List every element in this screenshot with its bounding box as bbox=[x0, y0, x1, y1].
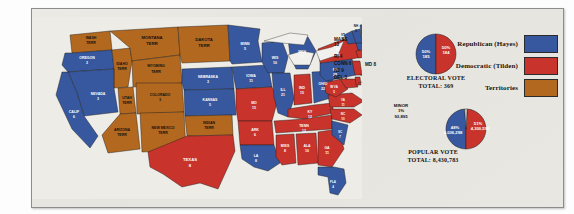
label-new-jersey: NJ 9 bbox=[334, 68, 351, 73]
svg-text:ARK: ARK bbox=[251, 128, 259, 132]
svg-text:12: 12 bbox=[302, 129, 306, 133]
svg-text:3: 3 bbox=[86, 61, 88, 65]
svg-text:MICH: MICH bbox=[298, 50, 306, 54]
popular-rep-votes: 4,036,298 bbox=[444, 130, 463, 135]
svg-text:DAKOTA: DAKOTA bbox=[195, 37, 213, 42]
svg-text:TERR: TERR bbox=[151, 70, 161, 74]
svg-text:UTAH: UTAH bbox=[122, 96, 132, 100]
svg-text:ALA: ALA bbox=[303, 144, 311, 148]
popular-pie: 48% 4,036,298 51% 4,300,590 bbox=[444, 109, 490, 149]
svg-text:WIS: WIS bbox=[272, 56, 279, 60]
legend-item-democratic: Democratic (Tilden) bbox=[446, 57, 558, 74]
svg-text:3: 3 bbox=[97, 97, 99, 101]
legend-item-republican: Republican (Hayes) bbox=[446, 35, 558, 52]
svg-text:OREGON: OREGON bbox=[79, 56, 95, 60]
svg-text:MINN: MINN bbox=[241, 42, 250, 46]
svg-text:KANSAS: KANSAS bbox=[203, 98, 218, 102]
svg-text:TERR: TERR bbox=[86, 41, 96, 45]
legend-swatch-territories bbox=[524, 79, 558, 97]
popular-caption-line1: POPULAR VOTE bbox=[384, 149, 482, 157]
svg-text:10: 10 bbox=[273, 61, 277, 65]
svg-text:TERR: TERR bbox=[146, 41, 157, 46]
svg-text:MONTANA: MONTANA bbox=[141, 35, 162, 40]
svg-text:NH: NH bbox=[354, 24, 358, 28]
svg-text:TENN: TENN bbox=[299, 124, 309, 128]
state-delaware bbox=[355, 77, 361, 85]
minor-pct: 1% bbox=[398, 108, 404, 113]
svg-text:15: 15 bbox=[252, 106, 256, 110]
minor-votes: 93,895 bbox=[394, 114, 407, 119]
northeast-callouts: MASS13 RI 4 CONN 6 NJ 9 DEL 3 bbox=[334, 37, 351, 81]
svg-text:IND: IND bbox=[299, 86, 306, 90]
legend-label-republican: Republican (Hayes) bbox=[457, 40, 518, 48]
state-oregon bbox=[62, 50, 114, 72]
svg-text:21: 21 bbox=[281, 93, 285, 97]
svg-text:8: 8 bbox=[255, 159, 257, 163]
svg-text:6: 6 bbox=[73, 115, 75, 119]
svg-text:LA: LA bbox=[254, 154, 259, 158]
svg-text:MISS: MISS bbox=[281, 144, 290, 148]
svg-text:TERR: TERR bbox=[158, 131, 168, 135]
svg-text:TERR: TERR bbox=[204, 126, 214, 130]
state-missouri bbox=[236, 87, 278, 121]
svg-text:5: 5 bbox=[244, 47, 246, 51]
svg-text:3: 3 bbox=[159, 98, 161, 102]
legend-swatch-democratic bbox=[524, 57, 558, 75]
svg-text:FLA: FLA bbox=[330, 180, 337, 184]
svg-text:KY: KY bbox=[308, 110, 314, 114]
svg-text:TEXAS: TEXAS bbox=[183, 157, 197, 162]
svg-text:INDIAN: INDIAN bbox=[203, 121, 216, 125]
svg-text:ILL: ILL bbox=[280, 88, 286, 92]
legend-swatch-republican bbox=[524, 35, 558, 53]
svg-text:TERR: TERR bbox=[198, 43, 209, 48]
svg-text:10: 10 bbox=[305, 149, 309, 153]
svg-text:WASH: WASH bbox=[86, 36, 97, 40]
svg-text:TERR: TERR bbox=[117, 67, 127, 71]
label-rhode-island: RI 4 bbox=[334, 54, 351, 59]
svg-text:10: 10 bbox=[341, 117, 345, 121]
legend-label-democratic: Democratic (Tilden) bbox=[456, 62, 518, 70]
state-arkansas bbox=[238, 121, 274, 145]
svg-text:TERR: TERR bbox=[117, 133, 127, 137]
label-delaware: DEL 3 bbox=[334, 75, 351, 80]
legend-label-territories: Territories bbox=[485, 84, 518, 92]
svg-text:ARIZONA: ARIZONA bbox=[114, 128, 130, 132]
svg-text:11: 11 bbox=[325, 151, 329, 155]
svg-text:15: 15 bbox=[300, 91, 304, 95]
svg-text:22: 22 bbox=[321, 87, 325, 91]
minor-label: MINOR bbox=[394, 103, 408, 108]
label-connecticut: CONN 6 bbox=[334, 61, 351, 66]
svg-text:6: 6 bbox=[254, 133, 256, 137]
map-panel: 1876 bbox=[31, 8, 564, 208]
legend-item-territories: Territories bbox=[446, 79, 558, 96]
svg-text:12: 12 bbox=[308, 115, 312, 119]
popular-dem-votes: 4,300,590 bbox=[471, 126, 490, 131]
svg-text:MO: MO bbox=[251, 101, 257, 105]
svg-text:8: 8 bbox=[284, 149, 286, 153]
svg-text:11: 11 bbox=[249, 79, 253, 83]
us-electoral-map: WASHTERR OREGON3 IDAHOTERR MONTANATERR W… bbox=[32, 17, 362, 199]
svg-text:NEVADA: NEVADA bbox=[91, 92, 106, 96]
svg-text:CALIF: CALIF bbox=[69, 110, 80, 114]
label-massachusetts: MASS13 bbox=[334, 37, 351, 48]
popular-vote-chart: MINOR 1% 93,895 48% 4,036,298 51% 4,300,… bbox=[384, 105, 482, 164]
svg-text:11: 11 bbox=[341, 103, 345, 107]
svg-text:NEBRASKA: NEBRASKA bbox=[198, 75, 218, 79]
label-maryland: MD 8 bbox=[365, 62, 376, 67]
svg-text:IDAHO: IDAHO bbox=[116, 62, 128, 66]
minor-vote-callout: MINOR 1% 93,895 bbox=[384, 103, 418, 119]
svg-text:5: 5 bbox=[209, 103, 211, 107]
svg-text:11: 11 bbox=[300, 55, 304, 59]
svg-text:W VA: W VA bbox=[330, 85, 338, 89]
election-map-figure: 1876 bbox=[0, 0, 574, 214]
svg-text:IOWA: IOWA bbox=[246, 74, 256, 78]
svg-text:WYOMING: WYOMING bbox=[147, 64, 165, 68]
popular-caption-line2: TOTAL: 8,430,783 bbox=[384, 157, 482, 165]
svg-text:OHIO: OHIO bbox=[319, 82, 328, 86]
electoral-rep-votes: 185 bbox=[423, 54, 431, 59]
svg-text:TERR: TERR bbox=[122, 101, 132, 105]
svg-text:NEW MEXICO: NEW MEXICO bbox=[152, 126, 175, 130]
svg-text:GA: GA bbox=[324, 146, 330, 150]
svg-text:COLORADO: COLORADO bbox=[150, 93, 171, 97]
state-mississippi bbox=[276, 134, 296, 165]
